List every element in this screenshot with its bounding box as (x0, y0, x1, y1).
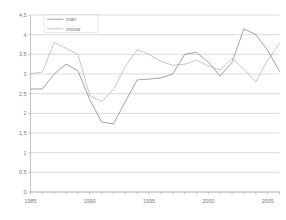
y-tick-label: 3 (24, 71, 27, 77)
data-series-group (31, 29, 280, 124)
gridlines-group (31, 15, 280, 192)
y-axis-tick-labels: 00,511,522,533,544,5 (19, 12, 27, 195)
y-axis (28, 15, 30, 192)
x-tick-label: 1990 (84, 198, 96, 204)
y-tick-label: 1 (24, 150, 27, 156)
y-tick-label: 4 (24, 32, 27, 38)
x-tick-label: 2000 (202, 198, 214, 204)
x-tick-label: 1995 (143, 198, 155, 204)
series-line-vrouw (31, 43, 280, 102)
legend-label-vrouw: vrouw (66, 26, 80, 32)
chart-legend: manvrouw (44, 15, 98, 33)
y-tick-label: 0,5 (19, 169, 27, 175)
y-tick-label: 2,5 (19, 91, 27, 97)
y-tick-label: 4,5 (19, 12, 27, 18)
line-chart: 00,511,522,533,544,5 1985199019952000200… (0, 0, 286, 220)
series-line-man (31, 29, 280, 124)
chart-canvas: 00,511,522,533,544,5 1985199019952000200… (0, 0, 286, 220)
y-tick-label: 1,5 (19, 130, 27, 136)
legend-label-man: man (66, 16, 77, 22)
x-axis-tick-labels: 19851990199520002005 (25, 198, 274, 204)
y-tick-label: 2 (24, 110, 27, 116)
y-tick-label: 0 (24, 189, 27, 195)
x-tick-label: 1985 (25, 198, 37, 204)
y-tick-label: 3,5 (19, 51, 27, 57)
x-axis-tickmarks (31, 192, 280, 195)
x-tick-label: 2005 (262, 198, 274, 204)
